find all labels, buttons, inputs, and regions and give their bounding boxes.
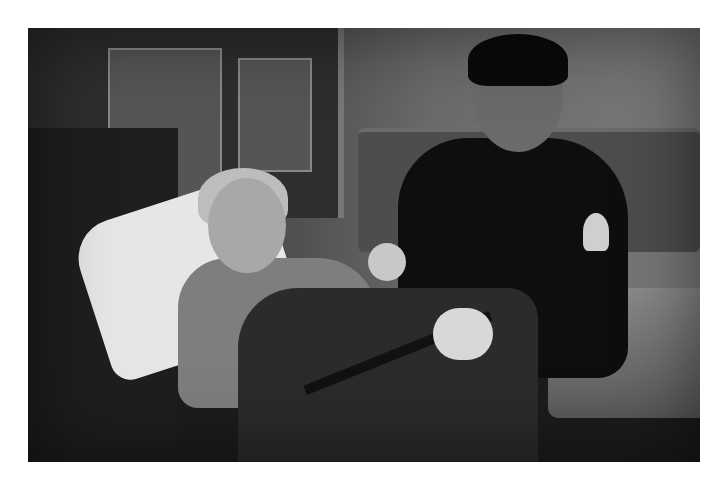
photograph [28, 28, 700, 462]
vignette [28, 28, 700, 462]
